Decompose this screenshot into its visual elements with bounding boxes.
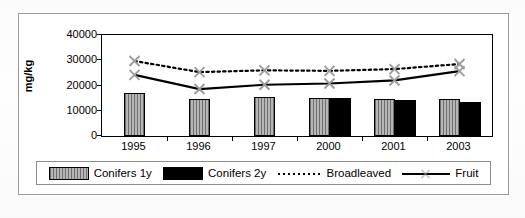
bar-conifers-1y xyxy=(124,93,145,136)
x-tick-label: 1996 xyxy=(166,140,231,152)
y-tick-label: 20000 xyxy=(51,80,97,90)
y-tick-mark xyxy=(97,135,101,136)
y-tick-label: 30000 xyxy=(51,54,97,64)
y-axis-title: mg/kg xyxy=(22,60,34,92)
legend-label: Fruit xyxy=(455,167,478,179)
black-swatch xyxy=(163,167,203,180)
y-tick-label: 10000 xyxy=(51,105,97,115)
legend-label: Conifers 1y xyxy=(94,167,152,179)
bar-conifers-1y xyxy=(439,99,460,136)
x-tick-label: 1995 xyxy=(101,140,166,152)
x-axis-tick-labels: 199519961997200020012003 xyxy=(101,140,491,160)
x-tick-label: 1997 xyxy=(231,140,296,152)
plot-area xyxy=(101,34,493,137)
legend-item[interactable]: Broadleaved xyxy=(278,167,392,179)
bar-conifers-2y xyxy=(330,98,351,136)
x-tick-label: 2000 xyxy=(296,140,361,152)
legend-label: Conifers 2y xyxy=(208,167,266,179)
line-fruit xyxy=(135,71,460,89)
plot-wrapper: mg/kg 010000200003000040000 199519961997… xyxy=(19,14,508,142)
bar-conifers-1y xyxy=(189,99,210,136)
y-tick-mark xyxy=(97,110,101,111)
y-tick-mark xyxy=(97,85,101,86)
bar-conifers-1y xyxy=(374,99,395,136)
chart-legend: Conifers 1yConifers 2yBroadleavedFruit xyxy=(36,161,491,185)
series-layer xyxy=(102,35,492,136)
chart-frame: mg/kg 010000200003000040000 199519961997… xyxy=(18,13,509,195)
y-axis-tick-labels: 010000200003000040000 xyxy=(51,14,97,142)
y-tick-label: 0 xyxy=(51,130,97,140)
y-tick-label: 40000 xyxy=(51,29,97,39)
legend-item[interactable]: Fruit xyxy=(402,167,478,179)
bar-conifers-1y xyxy=(254,97,275,136)
gray-hatched-swatch xyxy=(49,167,89,180)
dotted-line-swatch xyxy=(278,168,322,179)
bar-conifers-2y xyxy=(460,102,481,136)
marker-broadleaved xyxy=(130,56,140,66)
y-tick-mark xyxy=(97,34,101,35)
line-broadleaved xyxy=(135,61,460,72)
chart-screenshot: mg/kg 010000200003000040000 199519961997… xyxy=(0,0,525,218)
legend-item[interactable]: Conifers 1y xyxy=(49,167,152,180)
x-tick-label: 2001 xyxy=(361,140,426,152)
y-tick-mark xyxy=(97,59,101,60)
legend-item[interactable]: Conifers 2y xyxy=(163,167,266,180)
bar-conifers-2y xyxy=(395,100,416,136)
x-tick-label: 2003 xyxy=(426,140,491,152)
bar-conifers-1y xyxy=(309,98,330,136)
legend-label: Broadleaved xyxy=(327,167,392,179)
solid-line-x-marker-swatch xyxy=(402,168,450,179)
